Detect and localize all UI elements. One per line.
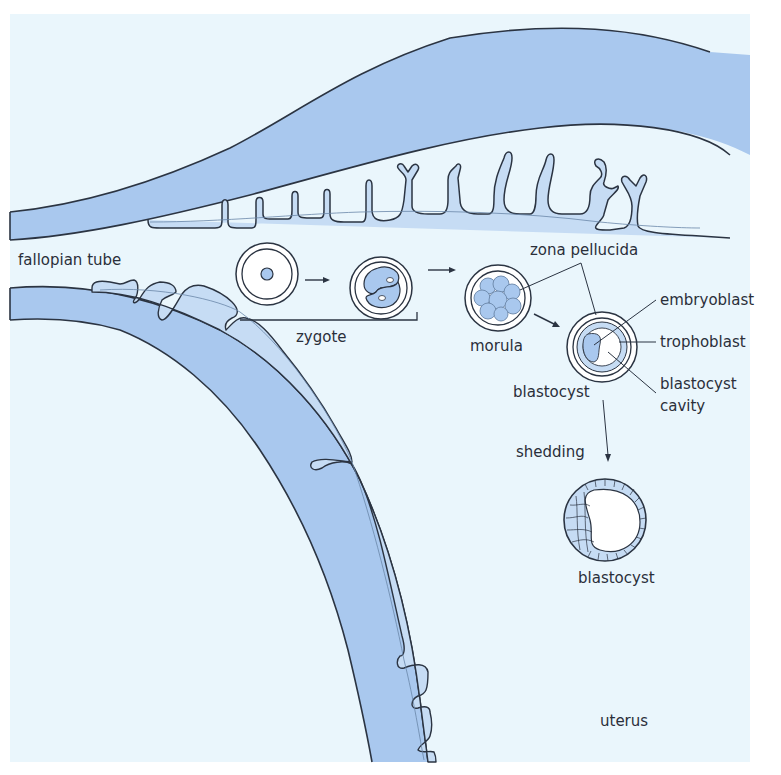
label-embryoblast: embryoblast	[660, 291, 754, 309]
label-zygote: zygote	[296, 328, 347, 346]
shed-blastocyst	[564, 479, 646, 561]
label-morula: morula	[470, 337, 523, 355]
label-blastocyst-stage: blastocyst	[513, 383, 590, 401]
blastocyst-in-zona	[567, 312, 637, 382]
label-blastocyst-cavity-line1: blastocyst	[660, 375, 737, 393]
label-blastocyst-cavity-line2: cavity	[660, 397, 705, 415]
zygote-cell	[236, 243, 298, 305]
label-fallopian-tube: fallopian tube	[18, 251, 121, 269]
label-blastocyst-shed: blastocyst	[578, 569, 655, 587]
label-trophoblast: trophoblast	[660, 333, 746, 351]
label-zona-pellucida: zona pellucida	[530, 241, 638, 259]
label-uterus: uterus	[600, 712, 648, 730]
morula	[465, 265, 531, 331]
two-cell-stage	[350, 257, 412, 319]
label-shedding: shedding	[516, 443, 585, 461]
